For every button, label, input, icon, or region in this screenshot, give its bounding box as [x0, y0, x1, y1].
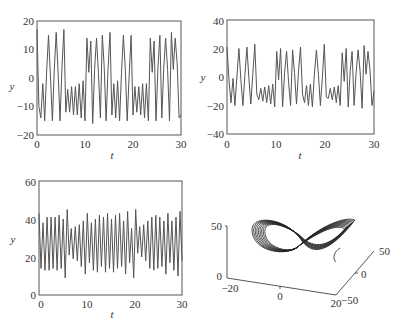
x-tick: 30	[177, 298, 189, 310]
x-tick: 10	[80, 138, 92, 150]
y-axis-label: y	[200, 71, 206, 83]
x-tick: 30	[369, 138, 381, 150]
x-tick: 0	[277, 290, 283, 302]
y-tick: 20	[25, 252, 37, 264]
figure: 20 10 0 −10 −20 0 10 20 30 t y 40 20 0 −…	[0, 0, 397, 327]
y-tick: 40	[213, 15, 225, 27]
x-tick: 20	[128, 138, 140, 150]
z-tick: 50	[211, 220, 223, 232]
y-tick: 10	[23, 43, 35, 55]
y-tick: 0	[31, 289, 37, 301]
y-tick: −50	[341, 294, 359, 306]
plot-x-vs-t: 20 10 0 −10 −20 0 10 20 30 t y	[9, 15, 187, 161]
data-line	[227, 44, 374, 108]
x-axis-label: t	[110, 308, 114, 320]
y-axis-label: y	[10, 233, 16, 245]
y-tick: −10	[17, 100, 35, 112]
data-line	[39, 210, 182, 278]
y-tick: 0	[29, 72, 35, 84]
x-tick: 20	[130, 298, 142, 310]
x-tick: 0	[38, 298, 44, 310]
x-tick: 0	[224, 138, 230, 150]
x-tick: −20	[221, 282, 239, 294]
x-tick: 30	[176, 138, 188, 150]
data-line	[37, 30, 181, 124]
z-tick: 0	[217, 270, 223, 282]
plot-y-vs-t: 40 20 0 −20 −40 0 10 20 30 t y	[200, 15, 380, 161]
y-tick: −20	[207, 100, 225, 112]
y-tick: 20	[213, 43, 225, 55]
x-axis-label: t	[298, 149, 302, 161]
y-tick: −20	[17, 129, 35, 141]
x-tick: 20	[320, 138, 332, 150]
x-tick: 10	[82, 298, 94, 310]
plot-z-vs-t: 60 40 20 0 0 10 20 30 t y	[10, 176, 188, 320]
y-tick: 0	[361, 268, 367, 280]
y-tick: 50	[379, 245, 391, 257]
lorenz-attractor-curve	[252, 219, 355, 262]
x-tick: 0	[34, 138, 40, 150]
y-tick: 0	[219, 71, 225, 83]
y-tick: −40	[207, 128, 225, 140]
y-tick: 60	[25, 176, 37, 188]
x-tick: 10	[271, 138, 283, 150]
x-axis-label: t	[110, 149, 114, 161]
y-tick: 40	[25, 214, 37, 226]
y-tick: 20	[23, 15, 35, 27]
y-axis-label: y	[9, 80, 15, 92]
plot-3d-attractor: 50 0 −20 0 20 50 0 −50	[211, 219, 391, 309]
